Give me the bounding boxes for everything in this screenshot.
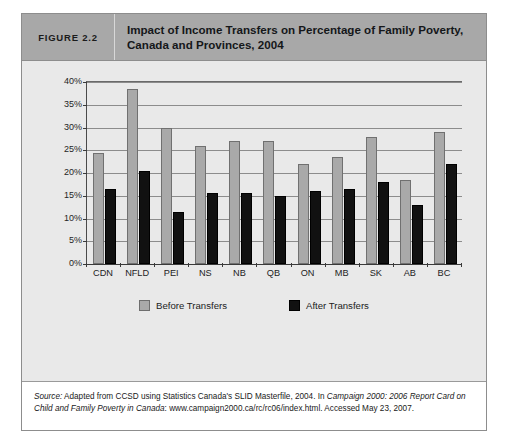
plot-area xyxy=(86,81,462,264)
x-tick-label-qb: QB xyxy=(267,268,280,278)
bar-ns-before-transfers xyxy=(195,146,206,264)
bar-pei-after-transfers xyxy=(173,212,184,264)
bar-qb-before-transfers xyxy=(263,141,274,264)
bar-ab-after-transfers xyxy=(412,205,423,264)
x-tick-label-bc: BC xyxy=(438,268,451,278)
bar-pei-before-transfers xyxy=(161,128,172,265)
bar-group-cdn xyxy=(87,82,121,264)
bar-nfld-after-transfers xyxy=(139,171,150,264)
x-tick-mark xyxy=(222,263,223,267)
bar-qb-after-transfers xyxy=(275,196,286,264)
legend-label: After Transfers xyxy=(306,300,369,311)
x-tick-label-pei: PEI xyxy=(164,268,179,278)
figure-container: FIGURE 2.2 Impact of Income Transfers on… xyxy=(21,13,487,431)
bar-mb-before-transfers xyxy=(332,157,343,264)
bar-group-ns xyxy=(189,82,223,264)
source-prefix: Source: xyxy=(34,392,62,401)
legend-item-before-transfers: Before Transfers xyxy=(139,300,227,311)
figure-header: FIGURE 2.2 Impact of Income Transfers on… xyxy=(22,14,486,61)
x-tick-mark xyxy=(154,263,155,267)
x-tick-mark xyxy=(427,263,428,267)
y-tick-label: 20% xyxy=(30,167,82,177)
bar-nb-before-transfers xyxy=(229,141,240,264)
x-tick-label-ab: AB xyxy=(404,268,416,278)
bar-group-mb xyxy=(326,82,360,264)
bar-group-nb xyxy=(223,82,257,264)
source-text-part-1: Adapted from CCSD using Statistics Canad… xyxy=(62,392,327,401)
legend-swatch-after-transfers xyxy=(289,300,300,311)
y-tick-label: 5% xyxy=(30,235,82,245)
bar-series-container xyxy=(87,82,462,264)
bar-mb-after-transfers xyxy=(344,189,355,264)
x-axis-labels: CDNNFLDPEINSNBQBONMBSKABBC xyxy=(86,268,461,284)
bar-sk-after-transfers xyxy=(378,182,389,264)
x-tick-mark xyxy=(86,263,87,267)
figure-title: Impact of Income Transfers on Percentage… xyxy=(115,14,486,60)
bar-on-before-transfers xyxy=(298,164,309,264)
y-tick-label: 30% xyxy=(30,122,82,132)
x-tick-label-mb: MB xyxy=(335,268,349,278)
x-tick-label-nb: NB xyxy=(233,268,246,278)
bar-bc-after-transfers xyxy=(446,164,457,264)
y-tick-label: 0% xyxy=(30,258,82,268)
bar-group-nfld xyxy=(121,82,155,264)
y-tick-label: 10% xyxy=(30,213,82,223)
y-tick-label: 15% xyxy=(30,190,82,200)
bar-nb-after-transfers xyxy=(241,193,252,264)
bar-ns-after-transfers xyxy=(207,193,218,264)
bar-group-on xyxy=(292,82,326,264)
bar-bc-before-transfers xyxy=(434,132,445,264)
bar-group-sk xyxy=(360,82,394,264)
x-tick-mark xyxy=(256,263,257,267)
x-tick-mark xyxy=(359,263,360,267)
legend-label: Before Transfers xyxy=(156,300,227,311)
bar-ab-before-transfers xyxy=(400,180,411,264)
y-tick-label: 25% xyxy=(30,144,82,154)
bar-on-after-transfers xyxy=(310,191,321,264)
x-tick-mark xyxy=(291,263,292,267)
x-tick-label-ns: NS xyxy=(199,268,212,278)
figure-number-label: FIGURE 2.2 xyxy=(22,14,115,60)
y-axis-labels: 0%5%10%15%20%25%30%35%40% xyxy=(26,81,82,263)
source-text-part-2: : www.campaign2000.ca/rc/rc06/index.html… xyxy=(165,404,414,413)
bar-sk-before-transfers xyxy=(366,137,377,264)
x-tick-mark xyxy=(120,263,121,267)
bar-group-bc xyxy=(428,82,462,264)
y-tick-label: 40% xyxy=(30,76,82,86)
x-tick-label-sk: SK xyxy=(370,268,382,278)
x-tick-label-on: ON xyxy=(301,268,315,278)
chart-area: 0%5%10%15%20%25%30%35%40% CDNNFLDPEINSNB… xyxy=(22,61,486,383)
x-tick-mark xyxy=(325,263,326,267)
x-tick-mark xyxy=(461,263,462,267)
figure-source-note: Source: Adapted from CCSD using Statisti… xyxy=(22,381,486,430)
chart-legend: Before TransfersAfter Transfers xyxy=(22,300,486,311)
x-tick-label-nfld: NFLD xyxy=(125,268,149,278)
x-tick-mark xyxy=(393,263,394,267)
bar-nfld-before-transfers xyxy=(127,89,138,264)
bar-group-qb xyxy=(257,82,291,264)
bar-cdn-before-transfers xyxy=(93,153,104,264)
bar-cdn-after-transfers xyxy=(105,189,116,264)
x-tick-mark xyxy=(188,263,189,267)
bar-group-pei xyxy=(155,82,189,264)
x-tick-label-cdn: CDN xyxy=(93,268,113,278)
bar-group-ab xyxy=(394,82,428,264)
legend-item-after-transfers: After Transfers xyxy=(289,300,369,311)
legend-swatch-before-transfers xyxy=(139,300,150,311)
y-tick-label: 35% xyxy=(30,99,82,109)
